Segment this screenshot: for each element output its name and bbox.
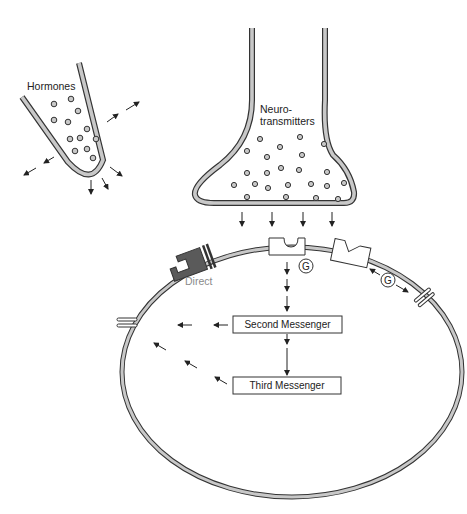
hormone-gland: Hormones bbox=[22, 63, 139, 194]
release-arrows bbox=[242, 212, 332, 226]
hormone-release-arrows bbox=[24, 102, 139, 194]
neuro-label-line2: transmitters bbox=[260, 115, 315, 127]
second-messenger-box: Second Messenger bbox=[233, 316, 342, 333]
direct-label: Direct bbox=[185, 275, 213, 287]
svg-text:Third Messenger: Third Messenger bbox=[249, 380, 325, 391]
g-protein-2: G bbox=[370, 269, 408, 292]
svg-text:G: G bbox=[302, 261, 310, 272]
svg-text:G: G bbox=[384, 275, 392, 286]
presynaptic-terminal: Neuro- transmitters bbox=[195, 28, 354, 226]
g-protein-1: G bbox=[299, 259, 313, 273]
hormones-label: Hormones bbox=[27, 80, 75, 92]
neuro-label-line1: Neuro- bbox=[260, 103, 293, 115]
postsynaptic-cell-membrane bbox=[122, 247, 462, 497]
third-messenger-box: Third Messenger bbox=[233, 377, 341, 394]
svg-text:Second Messenger: Second Messenger bbox=[244, 319, 331, 330]
signaling-diagram: Hormones Neuro- transmitters bbox=[0, 0, 467, 514]
g-protein-receptor bbox=[331, 239, 372, 268]
second-messenger-receptor bbox=[269, 238, 305, 255]
